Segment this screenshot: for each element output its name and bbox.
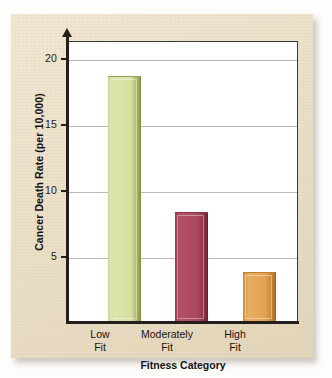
y-axis-line xyxy=(66,35,69,324)
x-axis-line xyxy=(66,321,299,324)
x-tick-label-high-fit-line2: Fit xyxy=(202,341,268,354)
x-tick-label-low-fit: Low Fit xyxy=(67,328,133,353)
x-tick-label-moderately-fit-line2: Fit xyxy=(128,341,206,354)
y-tick-10 xyxy=(61,190,68,192)
x-tick-label-high-fit: High Fit xyxy=(202,328,268,353)
x-tick-label-moderately-fit-line1: Moderately xyxy=(128,328,206,341)
y-tick-label-20: 20 xyxy=(17,52,57,64)
bar-bevel-moderately-fit xyxy=(177,215,204,319)
bar-high-fit xyxy=(243,272,276,322)
bar-bevel-high-fit xyxy=(245,275,272,319)
x-tick-label-low-fit-line1: Low xyxy=(67,328,133,341)
gridline-15 xyxy=(69,126,297,127)
x-tick-label-high-fit-line1: High xyxy=(202,328,268,341)
x-tick-label-low-fit-line2: Fit xyxy=(67,341,133,354)
bar-moderately-fit xyxy=(175,212,208,322)
x-tick-label-moderately-fit: Moderately Fit xyxy=(128,328,206,353)
bar-bevel-low-fit xyxy=(110,79,137,319)
gridline-10 xyxy=(69,192,297,193)
y-tick-15 xyxy=(61,124,68,126)
gridline-20 xyxy=(69,60,297,61)
y-tick-20 xyxy=(61,58,68,60)
y-axis-title: Cancer Death Rate (per 10,000) xyxy=(33,72,45,272)
plot-inner xyxy=(69,42,297,322)
bar-low-fit xyxy=(108,76,141,322)
y-tick-5 xyxy=(61,256,68,258)
chart-figure: 20 15 10 5 Cancer Death Rate (per 10,000… xyxy=(0,0,332,378)
plot-area xyxy=(68,41,298,323)
figure-card: 20 15 10 5 Cancer Death Rate (per 10,000… xyxy=(11,14,313,358)
x-axis-title: Fitness Category xyxy=(68,359,298,371)
